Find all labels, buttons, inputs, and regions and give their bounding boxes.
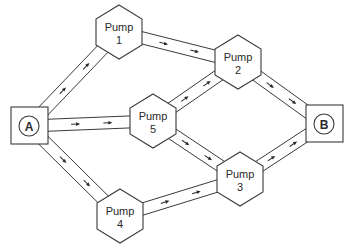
pump-number: 4 [117,218,123,230]
pump-number: 2 [235,64,241,76]
flow-arrow-icon [82,179,91,188]
pump-1: Pump1 [96,5,142,59]
flow-arrow-icon [71,122,80,126]
pump-number: 5 [150,123,156,135]
terminal-label: A [25,120,34,134]
flow-arrow-icon [190,48,200,54]
terminal-label: B [320,118,329,132]
flow-arrow-icon [191,189,201,195]
flow-arrow-icon [204,154,213,162]
pump-3: Pump3 [217,152,263,206]
flow-arrow-icon [266,81,275,89]
pump-4: Pump4 [97,189,143,243]
flow-arrow-icon [103,121,112,125]
flow-arrow-icon [181,139,190,147]
pump-label: Pump [105,21,134,33]
flow-arrow-icon [267,154,277,162]
pump-label: Pump [106,205,135,217]
flow-arrow-icon [58,86,67,95]
pump-label: Pump [139,110,168,122]
flow-arrow-icon [202,79,211,87]
terminal-a: A [11,107,48,144]
pump-network-diagram: ABPump1Pump2Pump3Pump4Pump5 [0,0,347,251]
pump-label: Pump [224,51,253,63]
pump-label: Pump [226,168,255,180]
terminal-b: B [306,105,343,142]
flow-arrow-icon [180,95,189,103]
flow-arrow-icon [82,62,91,71]
flow-arrow-icon [159,40,169,46]
pump-number: 1 [116,34,122,46]
flow-arrow-icon [160,199,170,205]
flow-arrow-icon [288,97,297,105]
pump-number: 3 [237,181,243,193]
flow-arrow-icon [289,140,299,148]
flow-arrow-icon [59,155,68,164]
